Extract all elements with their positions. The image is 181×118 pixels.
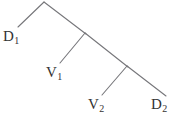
leaf-label-d2-text: D bbox=[151, 96, 162, 112]
edge-internal-node-1-internal-node-2 bbox=[85, 33, 128, 67]
edge-root-internal-node-1 bbox=[44, 2, 86, 34]
leaf-label-v1-subscript: 1 bbox=[57, 71, 62, 82]
edge-root-d1 bbox=[18, 2, 44, 27]
leaf-label-d2-subscript: 2 bbox=[162, 103, 167, 114]
leaf-label-v2-subscript: 2 bbox=[99, 103, 104, 114]
tree-diagram: D1 V1 V2 D2 bbox=[0, 0, 181, 118]
edge-internal-node-1-v1 bbox=[60, 33, 85, 63]
edge-internal-node-2-v2 bbox=[102, 66, 127, 95]
edge-internal-node-2-d2 bbox=[127, 66, 166, 96]
leaf-label-d1-subscript: 1 bbox=[14, 35, 19, 46]
leaf-label-v1: V1 bbox=[46, 65, 62, 80]
leaf-label-d1-text: D bbox=[3, 28, 14, 44]
leaf-label-v2-text: V bbox=[88, 96, 99, 112]
leaf-label-d1: D1 bbox=[3, 29, 19, 44]
leaf-label-v2: V2 bbox=[88, 97, 104, 112]
leaf-label-v1-text: V bbox=[46, 64, 57, 80]
leaf-label-d2: D2 bbox=[151, 97, 167, 112]
